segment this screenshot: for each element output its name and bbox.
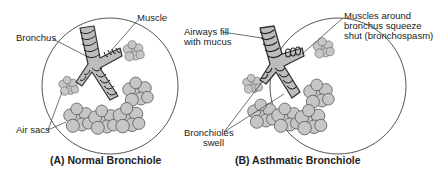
label-muscle: Muscle [137,13,167,23]
label-airways-fill: Airways fill with mucus [184,27,232,47]
label-bronchus: Bronchus [16,33,56,43]
label-bronchioles-line2: swell [184,138,224,148]
label-muscles-around: Muscles around bronchus squeeze shut (br… [344,11,433,41]
bronchus-b [260,26,304,98]
caption-asthmatic-bronchiole: (B) Asthmatic Bronchiole [235,154,361,166]
label-air-sacs: Air sacs [16,125,50,135]
caption-normal-bronchiole: (A) Normal Bronchiole [50,154,161,166]
label-bronchioles-swell: Bronchioles swell [184,128,224,148]
panel-a-diagram [42,18,178,154]
label-airways-line2: with mucus [184,37,232,47]
label-muscles-line3: shut (bronchospasm) [344,31,433,41]
bronchus-a [76,26,122,100]
